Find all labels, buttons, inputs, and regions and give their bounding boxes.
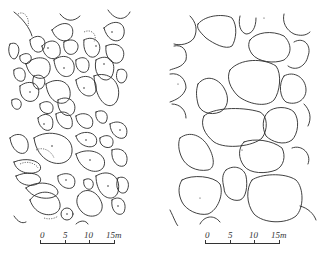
left-panel-clast-map [0, 0, 160, 226]
scale-label-0: 0 [40, 230, 45, 240]
scale-bar-left: 0 5 10 15m [30, 230, 130, 256]
scale-tick [279, 240, 280, 244]
scale-tick [114, 240, 115, 244]
scale-label-0: 0 [205, 230, 210, 240]
scale-label-5: 5 [63, 230, 68, 240]
scale-tick [89, 240, 90, 244]
scale-label-10: 10 [84, 230, 93, 240]
scale-tick [40, 240, 41, 244]
right-panel-clast-map [160, 0, 319, 226]
scale-tick [254, 240, 255, 244]
scale-line [40, 243, 114, 244]
right-clast-drawing [160, 0, 319, 226]
scale-label-15m: 15m [106, 230, 122, 240]
scale-line [205, 243, 279, 244]
scale-bar-right: 0 5 10 15m [195, 230, 295, 256]
left-clast-drawing [0, 0, 160, 226]
scale-label-5: 5 [228, 230, 233, 240]
scale-tick [230, 240, 231, 244]
scale-label-15m: 15m [271, 230, 287, 240]
scale-label-10: 10 [249, 230, 258, 240]
scale-tick [65, 240, 66, 244]
scale-tick [205, 240, 206, 244]
